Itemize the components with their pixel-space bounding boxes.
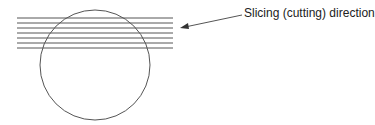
circle-shape bbox=[40, 10, 150, 120]
arrow-head-icon bbox=[180, 23, 189, 29]
arrow-shaft bbox=[185, 15, 242, 27]
slicing-direction-label: Slicing (cutting) direction bbox=[244, 6, 375, 20]
